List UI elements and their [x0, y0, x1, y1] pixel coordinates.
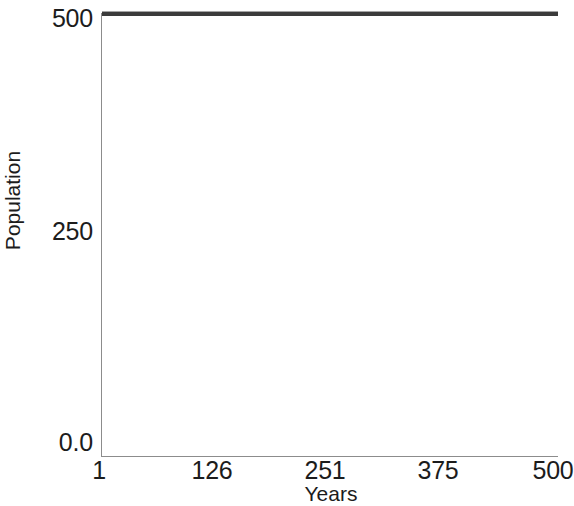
x-tick-label: 1 [92, 458, 106, 483]
x-tick-label: 375 [417, 458, 458, 483]
plot-area [102, 14, 558, 456]
x-axis-title-text: Years [305, 483, 358, 504]
x-axis-title: Years [0, 483, 574, 504]
data-series-line [102, 12, 558, 16]
y-tick-label: 500 [52, 6, 93, 31]
y-tick-label: 0.0 [59, 430, 93, 455]
y-axis-tick-labels: 0.0250500 [0, 0, 93, 506]
x-tick-label: 500 [532, 458, 573, 483]
x-tick-label: 126 [191, 458, 232, 483]
y-tick-label: 250 [52, 219, 93, 244]
x-tick-label: 251 [304, 458, 345, 483]
population-vs-years-chart: Population 0.0250500 1126251375500 Years [0, 0, 574, 506]
